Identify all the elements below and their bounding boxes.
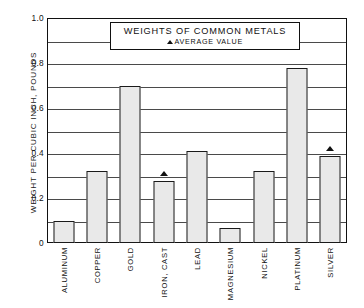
- bar-slot: [280, 18, 313, 243]
- x-label-slot: MAGNESIUM: [214, 243, 247, 308]
- bar-slot: [47, 18, 80, 243]
- bar: [53, 221, 74, 244]
- bar-chart: WEIGHT PER CUBIC INCH, POUNDS 00.20.40.6…: [0, 0, 364, 308]
- x-label-slot: LEAD: [180, 243, 213, 308]
- x-axis-category-label: LEAD: [192, 247, 201, 270]
- bar-slot: [314, 18, 347, 243]
- x-label-slot: PLATINUM: [280, 243, 313, 308]
- x-label-slot: ALUMINUM: [47, 243, 80, 308]
- y-axis-tick-label: 0.6: [18, 103, 44, 113]
- x-axis-category-label: GOLD: [126, 247, 135, 271]
- bar: [286, 68, 307, 244]
- legend-label: AVERAGE VALUE: [175, 37, 243, 46]
- y-axis-tick-label: 0.8: [18, 58, 44, 68]
- average-value-marker: [326, 146, 334, 151]
- triangle-up-icon: [167, 40, 173, 44]
- x-axis-category-labels: ALUMINUMCOPPERGOLDIRON, CASTLEADMAGNESIU…: [47, 243, 347, 308]
- x-axis-category-label: PLATINUM: [292, 247, 301, 290]
- bar: [120, 86, 141, 244]
- x-label-slot: GOLD: [114, 243, 147, 308]
- bar-slot: [180, 18, 213, 243]
- bar-slot: [114, 18, 147, 243]
- bar: [320, 156, 341, 243]
- x-axis-category-label: COPPER: [92, 247, 101, 283]
- y-axis-tick-label: 0.4: [18, 148, 44, 158]
- bar: [86, 171, 107, 243]
- bar-slot: [147, 18, 180, 243]
- x-label-slot: NICKEL: [247, 243, 280, 308]
- y-axis-tick-label: 0.2: [18, 193, 44, 203]
- chart-title: WEIGHTS OF COMMON METALS: [124, 26, 287, 36]
- bar: [253, 171, 274, 243]
- bars-layer: [47, 18, 347, 243]
- y-axis-tick-label: 1.0: [18, 13, 44, 23]
- bar: [220, 228, 241, 243]
- x-axis-category-label: NICKEL: [259, 247, 268, 279]
- bar-slot: [247, 18, 280, 243]
- x-axis-category-label: IRON, CAST: [159, 247, 168, 297]
- x-axis-category-label: SILVER: [326, 247, 335, 278]
- x-label-slot: IRON, CAST: [147, 243, 180, 308]
- x-axis-category-label: ALUMINUM: [59, 247, 68, 293]
- bar-slot: [80, 18, 113, 243]
- average-value-marker: [160, 171, 168, 176]
- y-axis-tick-label: 0: [18, 238, 44, 248]
- x-axis-category-label: MAGNESIUM: [226, 247, 235, 300]
- bar: [186, 151, 207, 243]
- legend-entry: AVERAGE VALUE: [167, 37, 243, 46]
- chart-title-box: WEIGHTS OF COMMON METALS AVERAGE VALUE: [110, 22, 300, 50]
- x-label-slot: COPPER: [80, 243, 113, 308]
- bar-slot: [214, 18, 247, 243]
- x-label-slot: SILVER: [314, 243, 347, 308]
- bar: [153, 181, 174, 243]
